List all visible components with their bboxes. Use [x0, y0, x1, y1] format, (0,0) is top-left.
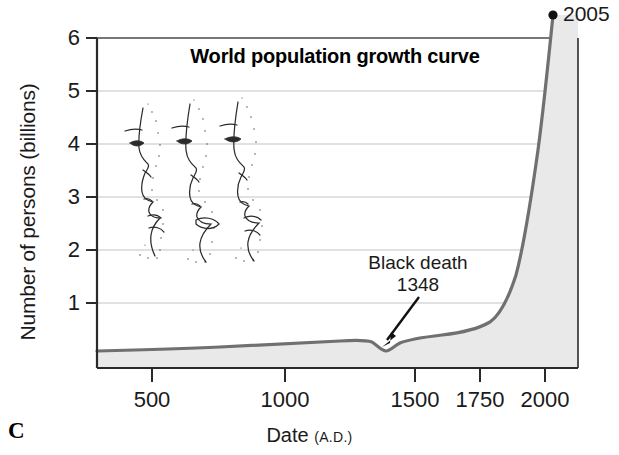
x-axis-title: Date (A.D.): [0, 424, 619, 447]
y-tick-label-4: 4: [46, 133, 80, 155]
figure-panel: World population growth curve Number of …: [0, 0, 619, 455]
black-death-annotation: Black death 1348: [338, 252, 498, 296]
endpoint-year-label: 2005: [563, 2, 610, 26]
black-death-label: Black death: [338, 252, 498, 274]
endpoint-marker-dot: [548, 10, 557, 19]
x-tick-label-1000: 1000: [250, 389, 320, 411]
y-tick-label-5: 5: [46, 80, 80, 102]
x-tick-label-2000: 2000: [510, 389, 580, 411]
panel-letter: C: [8, 418, 25, 444]
x-axis-title-era: (A.D.): [314, 429, 352, 445]
x-tick-label-1500: 1500: [380, 389, 450, 411]
x-tick-label-1750: 1750: [445, 389, 515, 411]
y-axis-title: Number of persons (billions): [16, 47, 40, 377]
y-axis-ticks: [86, 38, 97, 303]
x-axis-title-main: Date: [266, 424, 308, 446]
x-tick-label-500: 500: [117, 389, 187, 411]
chart-title: World population growth curve: [100, 45, 570, 68]
y-tick-label-6: 6: [46, 27, 80, 49]
x-axis-ticks: [152, 368, 545, 382]
y-tick-label-2: 2: [46, 239, 80, 261]
y-tick-label-3: 3: [46, 186, 80, 208]
y-tick-label-1: 1: [46, 292, 80, 314]
black-death-year: 1348: [338, 274, 498, 296]
